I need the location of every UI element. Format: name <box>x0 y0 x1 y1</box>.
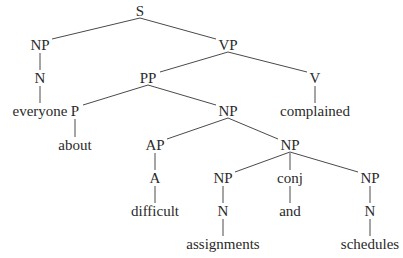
node-np2: NP <box>218 103 237 119</box>
node-np4: NP <box>213 170 232 186</box>
word-assignments: assignments <box>186 236 259 252</box>
tree-edge <box>228 118 278 139</box>
node-s: S <box>136 3 144 19</box>
tree-edge <box>83 85 148 105</box>
tree-edge <box>52 18 140 39</box>
node-p: P <box>71 103 79 119</box>
node-vp: VP <box>218 37 237 53</box>
node-a: A <box>150 170 161 186</box>
word-and: and <box>279 203 301 219</box>
tree-edge <box>235 152 290 172</box>
node-np1: NP <box>30 37 49 53</box>
node-ap: AP <box>145 137 164 153</box>
tree-edge <box>160 52 228 72</box>
word-about: about <box>58 137 91 153</box>
node-n2: N <box>218 203 229 219</box>
node-n1: N <box>35 70 46 86</box>
node-n3: N <box>365 203 376 219</box>
tree-edge <box>140 18 216 39</box>
word-difficult: difficult <box>131 203 179 219</box>
word-schedules: schedules <box>341 236 399 252</box>
node-v: V <box>310 70 321 86</box>
node-np3: NP <box>280 137 299 153</box>
word-everyone: everyone <box>13 103 68 119</box>
tree-edge <box>290 152 358 172</box>
tree-edge <box>167 118 228 139</box>
node-conj: conj <box>277 170 303 186</box>
tree-edge <box>148 85 216 105</box>
word-complained: complained <box>280 103 350 119</box>
node-np5: NP <box>360 170 379 186</box>
node-pp: PP <box>140 70 157 86</box>
tree-edge <box>228 52 307 72</box>
tree-edges <box>0 0 403 258</box>
